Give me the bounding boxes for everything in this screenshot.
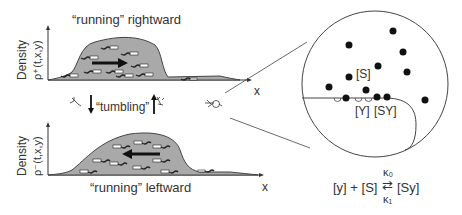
bottom-ylabel-rho: ρ⁻(t,x,y) [31, 136, 44, 176]
bottom-panel-title: “running” leftward [90, 180, 191, 195]
zoom-circle [302, 11, 448, 157]
bottom-ylabel-density: Density [16, 136, 29, 176]
bottom-xlabel: x [262, 180, 268, 194]
label-S: [S] [356, 67, 371, 81]
zoom-line-bottom [230, 118, 310, 148]
reversible-arrows: ⇄ [382, 178, 393, 193]
top-ylabel-rho: ρ⁺(t,x,y) [31, 40, 44, 80]
tumbling-label: “tumbling” [96, 100, 149, 114]
top-xlabel: x [254, 84, 260, 98]
equation-lhs: [y] + [S] [333, 180, 377, 195]
top-density-plot [46, 25, 252, 82]
rate-k0: κ₀ [383, 166, 393, 178]
zoom-line-top [225, 42, 307, 93]
top-panel-title: “running” rightward [72, 12, 181, 27]
bottom-density-plot [46, 122, 264, 177]
rate-k1: κ₁ [383, 193, 392, 205]
top-ylabel-density: Density [16, 40, 29, 80]
equation-rhs: [Sy] [397, 180, 419, 195]
label-SY: [SY] [374, 104, 397, 118]
label-Y: [Y] [355, 104, 370, 118]
